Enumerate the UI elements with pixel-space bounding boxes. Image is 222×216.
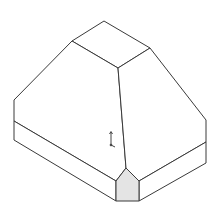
triad-origin <box>110 144 112 146</box>
cad-viewport[interactable] <box>0 0 222 216</box>
